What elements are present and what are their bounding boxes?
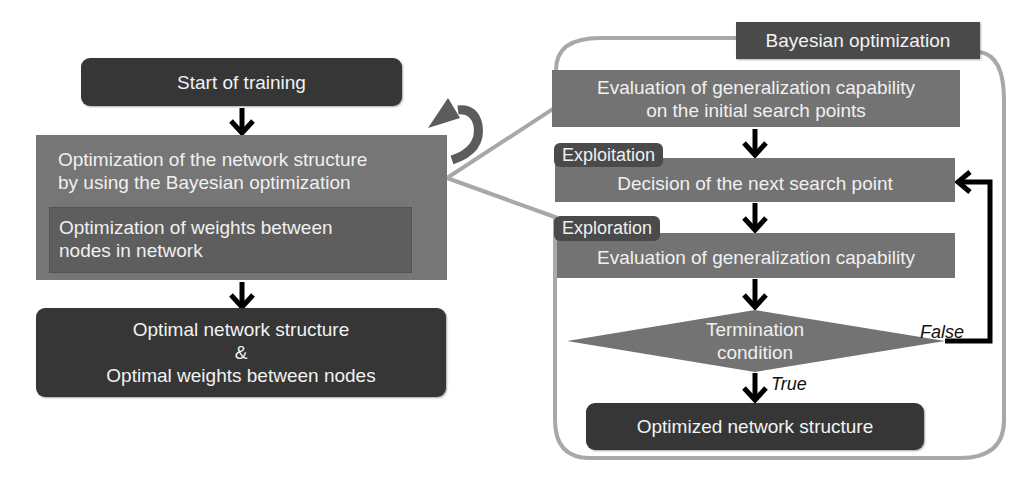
initial-eval-line2: on the initial search points <box>646 99 866 122</box>
arrow-down-6 <box>744 373 766 400</box>
termination-line1: Termination <box>655 318 855 341</box>
true-text: True <box>771 374 807 394</box>
optimized-network-structure-box: Optimized network structure <box>586 403 924 450</box>
arrow-down-5 <box>744 279 766 307</box>
result-line2: & <box>235 341 248 364</box>
inner-process-line1: Optimization of weights between <box>59 216 333 239</box>
bayesian-optimization-title: Bayesian optimization <box>736 22 980 59</box>
inner-process-line2: nodes in network <box>59 239 333 262</box>
false-label: False <box>920 322 964 343</box>
termination-label: Termination condition <box>655 318 855 364</box>
arrow-down-4 <box>744 203 766 230</box>
weights-optimization-box: Optimization of weights between nodes in… <box>49 207 412 273</box>
true-label: True <box>771 374 807 395</box>
termination-line2: condition <box>655 341 855 364</box>
initial-evaluation-box: Evaluation of generalization capability … <box>552 70 960 127</box>
outer-process-line2: by using the Bayesian optimization <box>58 171 367 194</box>
arrow-down-2 <box>231 282 253 307</box>
arrow-down-3 <box>744 129 766 155</box>
exploitation-tag: Exploitation <box>554 143 663 167</box>
evaluation-label: Evaluation of generalization capability <box>597 246 915 269</box>
optimal-result-box: Optimal network structure & Optimal weig… <box>36 308 446 397</box>
loop-arrow-outer-head <box>428 98 460 128</box>
result-line3: Optimal weights between nodes <box>106 364 375 387</box>
callout-line-upper <box>447 70 556 178</box>
arrow-down-1 <box>231 108 253 133</box>
network-structure-optimization-box: Optimization of the network structure by… <box>36 135 447 280</box>
exploitation-label: Exploitation <box>562 145 655 165</box>
bayesian-title-label: Bayesian optimization <box>766 29 951 52</box>
exploration-tag: Exploration <box>554 216 660 241</box>
result-line1: Optimal network structure <box>133 318 349 341</box>
exploration-label: Exploration <box>562 218 652 238</box>
optimized-label: Optimized network structure <box>637 415 874 438</box>
start-of-training-box: Start of training <box>81 58 402 106</box>
initial-eval-line1: Evaluation of generalization capability <box>597 76 915 99</box>
decision-label: Decision of the next search point <box>617 172 893 195</box>
start-of-training-label: Start of training <box>177 71 306 94</box>
outer-process-line1: Optimization of the network structure <box>58 148 367 171</box>
callout-line-lower <box>447 178 555 240</box>
false-text: False <box>920 322 964 342</box>
